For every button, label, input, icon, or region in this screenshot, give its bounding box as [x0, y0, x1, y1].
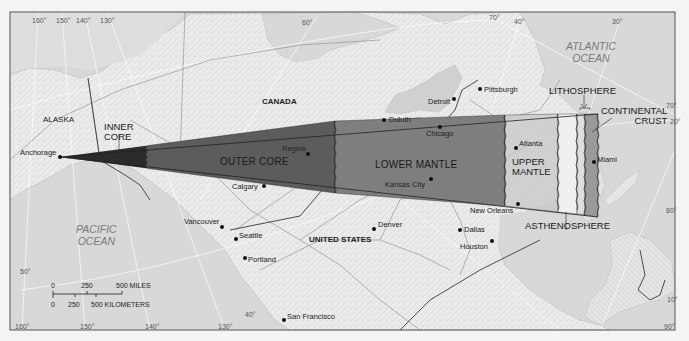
city-marker-icon	[58, 155, 62, 159]
city-label: Houston	[460, 243, 488, 251]
degree-label: 70°	[489, 14, 500, 21]
city-label: San Francisco	[287, 313, 335, 321]
city-label: Vancouver	[184, 218, 219, 226]
degree-label: 40°	[245, 311, 256, 318]
degree-label: 20°	[670, 118, 681, 125]
city-label: Calgary	[232, 183, 258, 191]
degree-label: 160°	[15, 323, 29, 330]
region-label-canada: CANADA	[262, 98, 297, 106]
degree-label: 60°	[302, 19, 313, 26]
city-marker-icon	[382, 118, 386, 122]
city-marker-icon	[262, 184, 266, 188]
city-marker-icon	[220, 225, 224, 229]
city-marker-icon	[458, 228, 462, 232]
city-label: Regina	[282, 145, 306, 153]
city-marker-icon	[372, 227, 376, 231]
degree-label: 150°	[80, 323, 94, 330]
layer-label-upper-mantle: UPPER MANTLE	[512, 157, 551, 177]
city-marker-icon	[243, 256, 247, 260]
asthenosphere-layer	[558, 114, 577, 214]
city-marker-icon	[516, 202, 520, 206]
city-label: Portland	[248, 256, 276, 264]
ocean-label-atlantic: ATLANTIC OCEAN	[566, 40, 616, 64]
scale-miles-250: 250	[81, 282, 93, 289]
city-label: Duluth	[389, 116, 411, 124]
city-label: Seattle	[239, 232, 262, 240]
degree-label: 70°	[666, 102, 677, 109]
city-label: Anchorage	[20, 149, 56, 157]
ocean-label-pacific: PACIFIC OCEAN	[76, 223, 117, 247]
city-marker-icon	[234, 237, 238, 241]
degree-label: 90°	[664, 323, 675, 330]
city-marker-icon	[478, 87, 482, 91]
city-label: Denver	[378, 221, 402, 229]
city-marker-icon	[490, 239, 494, 243]
layer-label-lithosphere: LITHOSPHERE	[549, 86, 616, 96]
scale-miles-500: 500 MILES	[116, 282, 151, 289]
city-marker-icon	[592, 160, 596, 164]
scale-km-0: 0	[51, 301, 55, 308]
city-marker-icon	[282, 318, 286, 322]
degree-label: 130°	[100, 17, 114, 24]
layer-label-continental-crust: CONTINENTAL CRUST	[601, 106, 667, 126]
degree-label: 150°	[56, 17, 70, 24]
degree-label: 30°	[612, 18, 623, 25]
scale-km-250: 250	[68, 301, 80, 308]
scale-miles-0: 0	[51, 282, 55, 289]
degree-label: 50°	[20, 268, 31, 275]
layer-label-lower-mantle: LOWER MANTLE	[375, 160, 457, 170]
city-marker-icon	[452, 97, 456, 101]
layer-label-inner-core: INNER CORE	[104, 122, 134, 142]
degree-label: 140°	[76, 17, 90, 24]
city-label: Detroit	[428, 98, 450, 106]
city-label: Pittsburgh	[484, 86, 518, 94]
degree-label: 10°	[667, 296, 678, 303]
city-marker-icon	[514, 146, 518, 150]
layer-label-outer-core: OUTER CORE	[220, 157, 289, 167]
degree-label: 130°	[218, 323, 232, 330]
city-label: Kansas City	[385, 181, 425, 189]
degree-label: 160°	[32, 17, 46, 24]
city-label: New Orleans	[470, 207, 513, 215]
scale-km-500: 500 KILOMETERS	[91, 301, 150, 308]
city-marker-icon	[429, 177, 433, 181]
city-marker-icon	[306, 152, 310, 156]
city-label: Miami	[597, 156, 617, 164]
city-label: Atlanta	[519, 140, 542, 148]
degree-label: 80°	[666, 207, 677, 214]
region-label-united-states: UNITED STATES	[309, 236, 371, 244]
degree-label: 140°	[145, 323, 159, 330]
city-label: Dallas	[464, 226, 485, 234]
city-label: Chicago	[426, 130, 454, 138]
degree-label: 40°	[514, 18, 525, 25]
region-label-alaska: ALASKA	[43, 116, 74, 124]
layer-label-asthenosphere: ASTHENOSPHERE	[525, 221, 610, 231]
